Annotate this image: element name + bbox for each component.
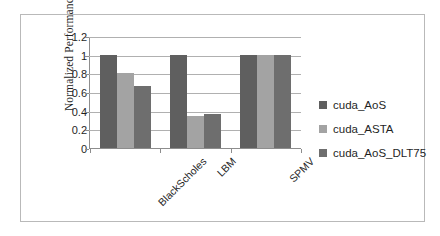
legend-swatch-icon	[319, 149, 327, 157]
y-axis-tick-mark	[85, 56, 89, 57]
legend-item-label: cuda_AoS	[333, 99, 386, 111]
bar	[257, 55, 274, 148]
plot-area	[89, 37, 301, 149]
y-axis-tick-label: 0.6	[49, 88, 87, 99]
bar	[117, 73, 134, 148]
y-axis-tick-label: 1.2	[49, 32, 87, 43]
y-axis-tick-mark	[85, 112, 89, 113]
x-axis-category-label: BlackScholes	[156, 155, 209, 208]
bar	[204, 114, 221, 148]
y-axis-tick-label: 0.4	[49, 107, 87, 118]
x-axis-category-label: SPMV	[287, 155, 317, 185]
bar	[187, 116, 204, 148]
bar-group	[231, 37, 301, 148]
chart-legend: cuda_AoScuda_ASTAcuda_AoS_DLT75	[319, 93, 440, 165]
legend-item: cuda_AoS_DLT75	[319, 141, 440, 165]
legend-item-label: cuda_AoS_DLT75	[333, 147, 426, 159]
legend-item: cuda_AoS	[319, 93, 440, 117]
bar-group	[90, 37, 160, 148]
legend-item-label: cuda_ASTA	[333, 123, 394, 135]
bar	[100, 55, 117, 148]
x-axis-category-labels: BlackScholesLBMSPMV	[89, 151, 301, 209]
legend-swatch-icon	[319, 101, 327, 109]
legend-item: cuda_ASTA	[319, 117, 440, 141]
y-axis-tick-label: 1	[49, 51, 87, 62]
y-axis-tick-mark	[85, 130, 89, 131]
legend-swatch-icon	[319, 125, 327, 133]
bar-group	[160, 37, 230, 148]
bar	[134, 86, 151, 148]
y-axis-tick-label: 0.2	[49, 125, 87, 136]
y-axis-tick-label: 0.8	[49, 69, 87, 80]
chart-figure-frame: Normalized Performance 00.20.40.60.811.2…	[20, 14, 425, 222]
y-axis-tick-mark	[85, 149, 89, 150]
bar	[240, 55, 257, 148]
y-axis-tick-label: 0	[49, 144, 87, 155]
y-axis-tick-labels: 00.20.40.60.811.2	[49, 37, 87, 149]
bars-layer	[90, 37, 301, 148]
bar	[170, 55, 187, 148]
x-axis-tick-mark	[301, 149, 302, 153]
y-axis-tick-mark	[85, 93, 89, 94]
x-axis-category-label: LBM	[214, 155, 238, 179]
y-axis-tick-mark	[85, 37, 89, 38]
y-axis-tick-mark	[85, 74, 89, 75]
bar	[274, 55, 291, 148]
